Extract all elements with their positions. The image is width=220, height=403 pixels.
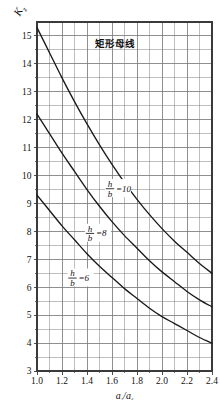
chart-title: 矩形母线 [94,38,135,49]
x-tick-label: 1.0 [31,376,43,386]
curve-label-denominator: b [70,278,75,288]
chart-plot-area: 3456789101112131415 1.01.21.41.61.82.02.… [0,0,220,403]
x-tick-label: 2.2 [181,376,193,386]
y-tick-label: 8 [27,227,32,237]
y-tick-label: 11 [22,143,31,153]
x-tick-label: 2.4 [206,376,218,386]
x-axis-title: a₁/a₂ [116,390,134,401]
curve-label-numerator: h [70,268,75,278]
x-tick-label: 2.0 [156,376,168,386]
curve-label-numerator: h [88,224,93,234]
y-tick-label: 15 [22,31,32,41]
chart-figure: Kz 3456789101112131415 1.01.21.41.61.82.… [0,0,220,403]
curve-label-denominator: b [88,233,93,243]
curve-label-denominator: b [108,189,113,199]
y-tick-label: 6 [27,283,32,293]
curve-label-numerator: h [108,179,113,189]
y-tick-label: 13 [22,87,32,97]
x-tick-label: 1.6 [106,376,118,386]
curve-label-value: =6 [79,273,90,283]
axis-ticks [34,36,213,375]
y-axis-tick-labels: 3456789101112131415 [22,31,32,376]
y-tick-label: 4 [27,338,32,348]
y-tick-label: 14 [22,59,32,69]
curve-label-value: =10 [116,184,132,194]
x-tick-label: 1.8 [131,376,143,386]
y-tick-label: 9 [27,199,32,209]
x-tick-label: 1.2 [56,376,68,386]
x-tick-label: 1.4 [81,376,93,386]
y-tick-label: 10 [22,171,32,181]
y-tick-label: 3 [27,366,32,376]
y-tick-label: 7 [27,255,32,265]
y-tick-label: 12 [22,115,32,125]
x-axis-tick-labels: 1.01.21.41.61.82.02.22.4 [31,376,218,386]
curve-label-value: =8 [96,228,107,238]
y-tick-label: 5 [27,310,32,320]
